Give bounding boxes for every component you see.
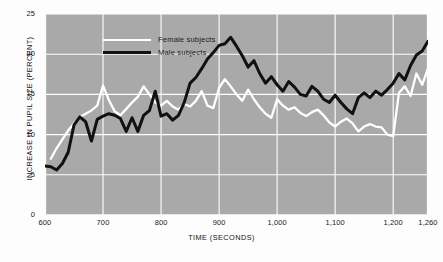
x-tick-1260: 1,260 <box>406 219 443 227</box>
x-tick-700: 700 <box>81 219 125 227</box>
legend-item-female: Female subjects <box>103 33 216 46</box>
legend-item-male: Male subjects <box>103 46 216 59</box>
x-tick-600: 600 <box>23 219 67 227</box>
legend-swatch-male-icon <box>103 51 151 54</box>
x-axis-title: TIME (SECONDS) <box>0 233 443 242</box>
y-tick-0: 0 <box>5 211 35 219</box>
legend-swatch-female-icon <box>103 39 151 41</box>
x-tick-800: 800 <box>139 219 183 227</box>
chart-legend: Female subjects Male subjects <box>103 33 216 59</box>
x-tick-1000: 1,000 <box>255 219 299 227</box>
plot-area: Female subjects Male subjects CONTROL <box>45 14 428 215</box>
y-axis-title: INCREASE IN PUPIL SIZE (PERCENT) <box>25 11 34 207</box>
legend-label-male: Male subjects <box>158 48 206 57</box>
legend-label-female: Female subjects <box>158 35 216 44</box>
x-tick-900: 900 <box>197 219 241 227</box>
x-tick-1100: 1,100 <box>313 219 357 227</box>
pupil-size-chart-figure: Female subjects Male subjects CONTROL 05… <box>0 0 443 262</box>
